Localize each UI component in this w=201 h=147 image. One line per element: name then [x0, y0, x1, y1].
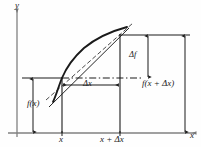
x-axis-label: x — [190, 131, 194, 140]
tick-label-x: x — [59, 135, 63, 144]
derivative-diagram-figure: y x Δx Δf f(x) f(x + Δx) x x + Δx — [0, 0, 201, 147]
f-of-x-label: f(x) — [27, 99, 40, 108]
figure-canvas — [0, 0, 201, 147]
f-of-x-plus-delta-x-label: f(x + Δx) — [142, 79, 174, 88]
tick-label-x-plus-delta-x: x + Δx — [100, 135, 124, 144]
secant-line — [49, 28, 129, 107]
axis-group — [8, 9, 196, 137]
delta-x-label: Δx — [83, 79, 92, 88]
y-axis-label: y — [15, 1, 19, 10]
delta-f-label: Δf — [129, 50, 136, 59]
